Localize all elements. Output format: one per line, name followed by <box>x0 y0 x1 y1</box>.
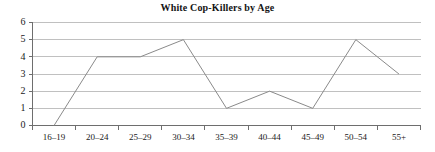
y-tick-label: 4 <box>21 51 26 62</box>
chart-container: White Cop-Killers by Age 0123456 16–1920… <box>0 0 435 152</box>
y-axis-tick-labels: 0123456 <box>21 16 26 130</box>
x-tick-label: 25–29 <box>129 132 152 142</box>
x-tick-label: 50–54 <box>345 132 368 142</box>
x-tick-label: 55+ <box>392 132 406 142</box>
data-series-line <box>54 40 399 126</box>
y-tick-label: 3 <box>21 68 26 79</box>
y-tick-label: 0 <box>21 119 26 130</box>
x-axis-tick-labels: 16–1920–2425–2930–3435–3940–4445–4950–54… <box>43 132 406 142</box>
y-axis-tick-marks <box>29 23 33 126</box>
gridlines-group <box>33 23 421 109</box>
x-tick-label: 20–24 <box>86 132 109 142</box>
x-tick-label: 30–34 <box>172 132 195 142</box>
x-tick-label: 40–44 <box>258 132 281 142</box>
y-tick-label: 2 <box>21 85 26 96</box>
line-chart-plot: 0123456 16–1920–2425–2930–3435–3940–4445… <box>0 0 435 152</box>
x-tick-label: 16–19 <box>43 132 66 142</box>
y-tick-label: 1 <box>21 102 26 113</box>
x-tick-label: 35–39 <box>215 132 238 142</box>
y-tick-label: 6 <box>21 16 26 27</box>
y-tick-label: 5 <box>21 33 26 44</box>
x-tick-label: 45–49 <box>301 132 324 142</box>
x-axis-tick-marks <box>33 126 421 130</box>
